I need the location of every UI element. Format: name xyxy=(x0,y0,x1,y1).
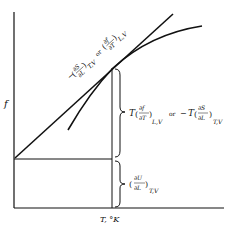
svg-text:∂f: ∂f xyxy=(139,104,146,112)
svg-text:T,V: T,V xyxy=(213,118,223,125)
tangent-slope-label: − ( ∂S ∂L ) T,V or ( ∂f ∂T ) L,V xyxy=(64,24,129,85)
y-axis-label: f xyxy=(3,98,10,109)
svg-text:∂U: ∂U xyxy=(134,174,143,181)
upper-brace-label: T ( ∂f ∂T ) L,V or − T ( ∂S ∂L ) T,V xyxy=(129,104,223,125)
x-axis-label: T, °K xyxy=(100,215,120,224)
svg-text:T,V: T,V xyxy=(86,58,98,70)
svg-text:∂L: ∂L xyxy=(198,114,205,121)
svg-text:(: ( xyxy=(194,110,197,119)
svg-text:or: or xyxy=(169,110,176,117)
svg-text:(: ( xyxy=(135,110,138,119)
svg-text:∂S: ∂S xyxy=(198,104,205,111)
lower-brace-label: ( ∂U ∂L ) T,V xyxy=(129,174,159,194)
svg-text:): ) xyxy=(209,110,212,119)
svg-text:(: ( xyxy=(129,180,132,189)
svg-text:−: − xyxy=(180,109,187,118)
svg-text:T,V: T,V xyxy=(149,187,159,194)
lower-brace xyxy=(115,161,125,207)
svg-text:L,V: L,V xyxy=(151,118,163,125)
svg-text:): ) xyxy=(145,180,148,189)
svg-text:or: or xyxy=(93,48,103,58)
diagram-canvas: f T, °K − ( ∂S ∂L ) T,V or ( ∂f ∂T ) L,V… xyxy=(0,0,245,227)
tangent-line xyxy=(15,14,173,158)
svg-text:∂T: ∂T xyxy=(139,114,147,121)
upper-brace xyxy=(115,69,125,157)
svg-text:∂L: ∂L xyxy=(134,184,141,191)
